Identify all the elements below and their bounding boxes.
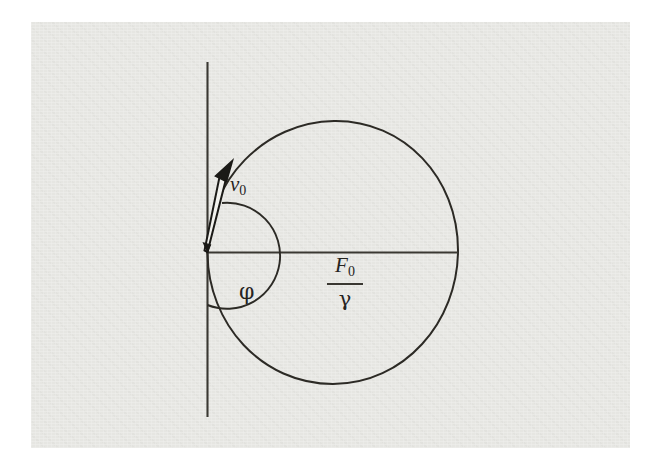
force-symbol: F bbox=[335, 253, 348, 277]
figure-page: v0 φ F0 γ bbox=[0, 0, 655, 470]
diagram-canvas bbox=[0, 0, 655, 470]
force-subscript: 0 bbox=[348, 264, 355, 279]
angle-label: φ bbox=[239, 281, 254, 303]
fraction-numerator: F0 bbox=[317, 254, 373, 279]
velocity-symbol: v bbox=[230, 172, 239, 196]
fraction-denominator: γ bbox=[317, 288, 373, 311]
diameter-fraction-label: F0 γ bbox=[317, 254, 373, 311]
velocity-label: v0 bbox=[230, 174, 246, 198]
velocity-subscript: 0 bbox=[239, 183, 246, 198]
fraction-bar bbox=[327, 283, 363, 285]
